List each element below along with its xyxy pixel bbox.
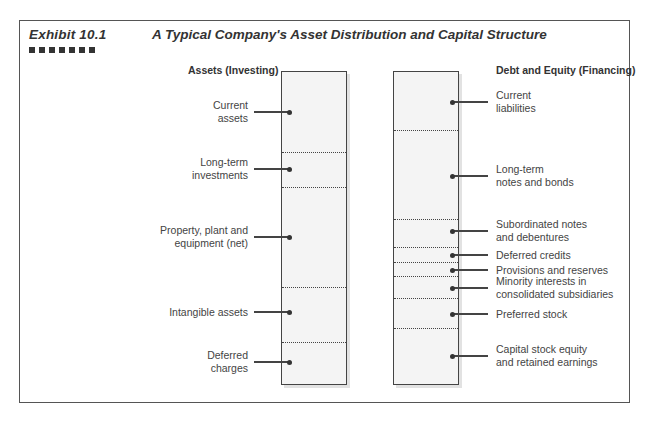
square-icon: [29, 47, 35, 53]
leader-dot-icon: [450, 268, 455, 273]
leader-dot-icon: [450, 312, 455, 317]
asset-label: Currentassets: [213, 99, 248, 125]
asset-label-line: charges: [207, 362, 248, 375]
financing-label-line: Capital stock equity: [496, 343, 598, 356]
financing-label-line: notes and bonds: [496, 176, 574, 189]
financing-label: Preferred stock: [496, 308, 567, 321]
assets-heading: Assets (Investing): [188, 64, 278, 76]
leader-line: [452, 287, 488, 289]
leader-line: [254, 361, 288, 363]
section-divider: [394, 219, 458, 220]
assets-bar: [281, 71, 347, 385]
financing-label-line: Deferred credits: [496, 249, 571, 262]
financing-label: Minority interests inconsolidated subsid…: [496, 275, 613, 301]
leader-line: [452, 230, 488, 232]
asset-label: Intangible assets: [169, 306, 248, 319]
square-icon: [79, 47, 85, 53]
financing-label: Subordinated notesand debentures: [496, 218, 587, 244]
square-icon: [49, 47, 55, 53]
section-divider: [394, 130, 458, 131]
asset-label: Long-terminvestments: [192, 156, 248, 182]
financing-label-line: and debentures: [496, 231, 587, 244]
leader-line: [452, 175, 488, 177]
financing-heading: Debt and Equity (Financing): [496, 64, 635, 76]
leader-line: [452, 355, 488, 357]
financing-label-line: liabilities: [496, 102, 536, 115]
asset-label-line: Current: [213, 99, 248, 112]
financing-label-line: Current: [496, 89, 536, 102]
asset-label-line: assets: [213, 112, 248, 125]
asset-label-line: Deferred: [207, 349, 248, 362]
financing-label: Deferred credits: [496, 249, 571, 262]
section-divider: [394, 262, 458, 263]
exhibit-number: Exhibit 10.1: [29, 27, 106, 42]
section-divider: [394, 328, 458, 329]
leader-dot-icon: [287, 167, 292, 172]
leader-line: [452, 313, 488, 315]
financing-label-line: Preferred stock: [496, 308, 567, 321]
financing-label-line: and retained earnings: [496, 356, 598, 369]
section-divider: [282, 152, 346, 153]
leader-dot-icon: [287, 110, 292, 115]
asset-label-line: equipment (net): [160, 237, 248, 250]
leader-line: [254, 236, 288, 238]
financing-label: Long-termnotes and bonds: [496, 163, 574, 189]
leader-dot-icon: [450, 253, 455, 258]
leader-dot-icon: [450, 354, 455, 359]
financing-bar: [393, 71, 459, 385]
leader-dot-icon: [450, 229, 455, 234]
leader-line: [254, 111, 288, 113]
section-divider: [282, 287, 346, 288]
section-divider: [394, 247, 458, 248]
exhibit-title: A Typical Company's Asset Distribution a…: [152, 27, 547, 42]
section-divider: [282, 187, 346, 188]
asset-label: Deferredcharges: [207, 349, 248, 375]
section-divider: [282, 342, 346, 343]
leader-dot-icon: [450, 100, 455, 105]
asset-label: Property, plant andequipment (net): [160, 224, 248, 250]
leader-dot-icon: [450, 286, 455, 291]
asset-label-line: Long-term: [192, 156, 248, 169]
financing-label-line: consolidated subsidiaries: [496, 288, 613, 301]
square-icon: [59, 47, 65, 53]
financing-label: Currentliabilities: [496, 89, 536, 115]
financing-label-line: Long-term: [496, 163, 574, 176]
asset-label-line: Intangible assets: [169, 306, 248, 319]
leader-line: [254, 311, 288, 313]
financing-label-line: Minority interests in: [496, 275, 613, 288]
leader-line: [452, 269, 488, 271]
asset-label-line: Property, plant and: [160, 224, 248, 237]
leader-line: [254, 168, 288, 170]
decorative-squares: [29, 47, 95, 53]
asset-label-line: investments: [192, 169, 248, 182]
financing-label-line: Subordinated notes: [496, 218, 587, 231]
leader-line: [452, 101, 488, 103]
financing-label: Capital stock equityand retained earning…: [496, 343, 598, 369]
leader-dot-icon: [450, 174, 455, 179]
section-divider: [394, 276, 458, 277]
square-icon: [69, 47, 75, 53]
leader-dot-icon: [287, 360, 292, 365]
square-icon: [39, 47, 45, 53]
leader-dot-icon: [287, 310, 292, 315]
section-divider: [394, 298, 458, 299]
leader-line: [452, 254, 488, 256]
square-icon: [89, 47, 95, 53]
leader-dot-icon: [287, 235, 292, 240]
